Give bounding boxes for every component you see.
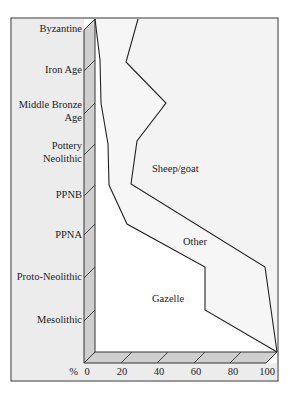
category-label: Middle Bronze	[19, 99, 83, 110]
x-axis-unit-label: %	[69, 366, 78, 377]
category-label: Byzantine	[39, 23, 82, 34]
category-label: PPNA	[55, 229, 82, 240]
category-label: Proto-Neolithic	[17, 271, 83, 282]
x-tick-label: 60	[191, 366, 202, 377]
x-tick-label: 0	[84, 366, 89, 377]
x-tick-label: 80	[228, 366, 239, 377]
gazelle-label: Gazelle	[152, 293, 184, 304]
category-label: PPNB	[56, 189, 82, 200]
tick-panel	[84, 363, 277, 380]
category-label: Neolithic	[43, 153, 82, 164]
x-tick-label: 100	[259, 366, 275, 377]
other-label: Other	[183, 236, 207, 247]
sheep-goat-label: Sheep/goat	[152, 163, 199, 174]
stacked-area-chart: Sheep/goat Other Gazelle Byzantine Iron …	[0, 0, 290, 393]
floor	[84, 352, 277, 363]
x-tick-label: 40	[154, 366, 165, 377]
x-tick-label: 20	[117, 366, 128, 377]
category-label: Iron Age	[45, 64, 82, 75]
category-label: Mesolithic	[37, 314, 82, 325]
category-label: Pottery	[52, 140, 83, 151]
category-label: Age	[65, 112, 83, 123]
